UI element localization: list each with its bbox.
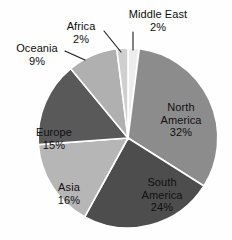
pie-chart: North America 32% South America 24% Asia… [0, 0, 232, 240]
leader-line-oceania [65, 51, 85, 60]
pie-chart-svg [0, 0, 232, 240]
pie-slices [38, 48, 218, 228]
